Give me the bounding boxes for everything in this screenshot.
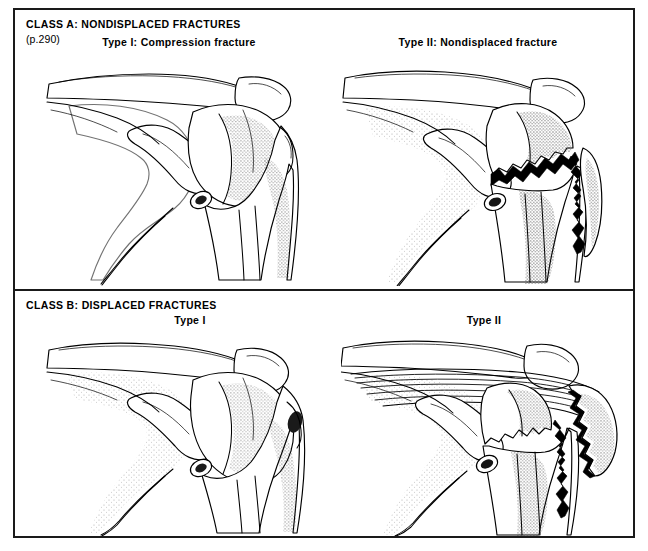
panel-class-a: CLASS A: NONDISPLACED FRACTURES (p.290) … — [15, 10, 633, 289]
illustration-class-a-type-2 — [341, 48, 631, 286]
label-class-a-type-1: Type I: Compression fracture — [102, 36, 256, 48]
class-a-heading: CLASS A: NONDISPLACED FRACTURES — [26, 18, 241, 30]
illustration-class-a-type-1 — [43, 48, 333, 286]
illustration-class-b-type-1 — [43, 324, 333, 536]
class-a-page-reference: (p.290) — [26, 33, 60, 45]
label-class-a-type-2: Type II: Nondisplaced fracture — [399, 36, 558, 48]
illustration-class-b-type-2 — [341, 324, 631, 536]
figure-plate: CLASS A: NONDISPLACED FRACTURES (p.290) … — [13, 8, 635, 538]
panel-class-b: CLASS B: DISPLACED FRACTURES Type I Type… — [15, 289, 633, 536]
class-b-heading: CLASS B: DISPLACED FRACTURES — [26, 299, 217, 311]
